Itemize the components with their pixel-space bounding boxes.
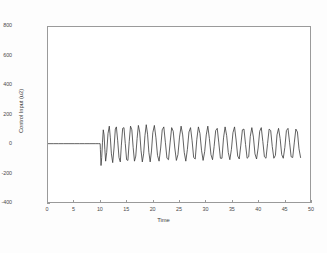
x-axis-label: Time: [0, 217, 327, 223]
x-tick-mark: [153, 200, 154, 203]
x-tick-mark: [232, 200, 233, 203]
x-tick-mark: [100, 200, 101, 203]
plot-area: [47, 26, 311, 203]
x-tick-label: 15: [114, 207, 138, 212]
x-tick-mark: [47, 200, 48, 203]
figure-canvas: Control Input (u2) -400-2000200400600800…: [0, 0, 327, 253]
x-tick-label: 20: [141, 207, 165, 212]
x-tick-label: 40: [246, 207, 270, 212]
y-tick-label: 400: [0, 82, 12, 87]
x-tick-label: 5: [61, 207, 85, 212]
control-input-signal-line: [48, 125, 301, 166]
y-tick-label: 800: [0, 23, 12, 28]
x-tick-label: 0: [35, 207, 59, 212]
x-tick-label: 10: [88, 207, 112, 212]
x-tick-label: 25: [167, 207, 191, 212]
y-tick-mark: [47, 203, 50, 204]
x-tick-label: 45: [273, 207, 297, 212]
y-axis-label-container: Control Input (u2): [8, 0, 30, 253]
x-tick-mark: [258, 200, 259, 203]
y-tick-label: 200: [0, 112, 12, 117]
x-tick-mark: [179, 200, 180, 203]
signal-plot: [48, 27, 310, 202]
y-tick-label: -200: [0, 171, 12, 176]
x-tick-mark: [126, 200, 127, 203]
y-axis-label: Control Input (u2): [18, 36, 24, 186]
x-tick-mark: [285, 200, 286, 203]
x-tick-mark: [73, 200, 74, 203]
x-tick-label: 50: [299, 207, 323, 212]
y-tick-label: -400: [0, 200, 12, 205]
y-tick-label: 0: [0, 141, 12, 146]
x-tick-mark: [205, 200, 206, 203]
x-tick-label: 30: [193, 207, 217, 212]
x-tick-label: 35: [220, 207, 244, 212]
x-tick-mark: [311, 200, 312, 203]
y-tick-label: 600: [0, 53, 12, 58]
